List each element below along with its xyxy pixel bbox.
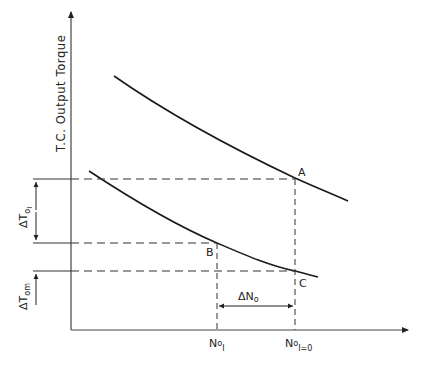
y-axis-label: T.C. Output Torque	[54, 35, 68, 153]
point-B-label: B	[206, 246, 214, 259]
point-A-label: A	[298, 166, 306, 179]
upper-torque-curve	[114, 76, 348, 201]
N-oI-label: NoI	[209, 337, 225, 353]
N-oI0-label: NoI=0	[285, 337, 312, 353]
delta-T-oI-label: ΔToI	[17, 207, 34, 228]
lower-torque-curve	[89, 171, 318, 277]
point-C-label: C	[299, 277, 307, 290]
svg-text:ΔToI: ΔToI	[17, 207, 34, 228]
svg-text:ΔTom: ΔTom	[17, 283, 32, 310]
delta-T-om-label: ΔTom	[17, 283, 32, 310]
delta-N-o-label: ΔNo	[238, 290, 259, 304]
torque-speed-diagram: T.C. Output Torque ΔToI ΔTom A B C ΔNo N…	[0, 0, 421, 365]
